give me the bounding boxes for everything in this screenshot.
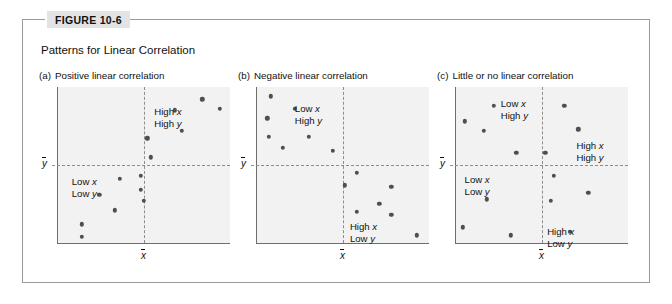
data-point [267,135,271,139]
data-point [461,225,465,229]
data-point [481,128,485,132]
panel-a-y-mean-label: y [42,158,47,169]
data-point [145,136,149,140]
data-point [355,210,359,214]
panel-c-letter: (c) [437,70,448,81]
panel-a-letter: (a) [39,70,51,81]
quadrant-label-lower-left: Low xLow y [72,176,97,200]
data-point [142,199,146,203]
panel-b-caption: (b)Negative linear correlation [238,70,368,81]
data-point [138,188,142,192]
data-point [548,199,552,203]
data-point [113,208,117,212]
data-point [552,174,556,178]
data-point [576,127,580,131]
panel-a-title: Positive linear correlation [55,70,164,81]
data-point [514,150,518,154]
data-point [389,185,393,189]
data-point [118,177,122,181]
data-point [343,183,347,187]
panel-a-mean-y-line [52,165,230,166]
figure-box: FIGURE 10-6 Patterns for Linear Correlat… [22,19,650,283]
panel-b-letter: (b) [238,70,250,81]
data-point [462,119,466,123]
panel-c-plot-area: Low xHigh yHigh xHigh yLow xLow yHigh xL… [455,87,628,244]
data-point [377,202,381,206]
panel-b-mean-y-line [251,165,429,166]
quadrant-label-upper-left: Low xHigh y [295,103,322,127]
panel-a-x-mean-label: x [141,250,146,261]
data-point [355,171,359,175]
data-point [586,191,590,195]
quadrant-label-right-middle: High xHigh y [576,140,603,164]
data-point [330,149,334,153]
figure-caption: Patterns for Linear Correlation [41,44,195,56]
panel-a-plot-area: High xHigh yLow xLow y [57,87,230,244]
data-point [543,150,547,154]
quadrant-label-lower-right: High xLow y [547,226,574,250]
panel-b-x-mean-label: x [340,250,345,261]
data-point [217,107,221,111]
quadrant-label-upper-right: High xHigh y [154,106,181,130]
data-point [509,233,513,237]
panel-c-caption: (c)Little or no linear correlation [437,70,573,81]
data-point [97,192,101,196]
quadrant-label-upper-left: Low xHigh y [501,98,528,122]
panel-b-title: Negative linear correlation [254,70,368,81]
quadrant-label-lower-left: Low xLow y [465,174,490,198]
data-point [200,97,204,101]
data-point [138,174,142,178]
panel-a-positive-correlation: (a)Positive linear correlation High xHig… [39,70,235,266]
panel-c-x-mean-label: x [539,250,544,261]
data-point [281,146,285,150]
panel-c-title: Little or no linear correlation [452,70,573,81]
data-point [492,104,496,108]
data-point [415,233,419,237]
panel-a-caption: (a)Positive linear correlation [39,70,164,81]
data-point [80,235,84,239]
panel-b-y-mean-label: y [241,158,246,169]
data-point [149,155,153,159]
panel-c-y-mean-label: y [440,158,445,169]
data-point [389,213,393,217]
figure-number-tab: FIGURE 10-6 [47,11,130,28]
data-point [269,94,273,98]
panel-c-no-correlation: (c)Little or no linear correlation Low x… [437,70,633,266]
data-point [562,104,566,108]
panel-c-mean-y-line [450,165,628,166]
panel-b-plot-area: Low xHigh yHigh xLow y [256,87,429,244]
quadrant-label-lower-right: High xLow y [350,221,377,245]
data-point [306,135,310,139]
data-point [265,116,269,120]
data-point [80,222,84,226]
figure-number-label: FIGURE 10-6 [55,14,122,26]
panel-b-negative-correlation: (b)Negative linear correlation Low xHigh… [238,70,434,266]
